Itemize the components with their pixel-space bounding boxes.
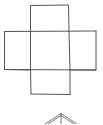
cross-net-diagram: Cross-shaped net of squares (cube net) w… — [0, 0, 103, 124]
pyramid-left-edge-outer — [45, 114, 61, 125]
pyramid-left-edge-inner — [48, 116, 61, 125]
net-face-bottom — [31, 94, 70, 95]
net-center-left-edge — [31, 31, 32, 94]
net-face-left — [5, 32, 31, 71]
net-face-top — [31, 5, 70, 31]
net-face-right — [70, 31, 96, 70]
net-crossbar-bottom-edge — [5, 70, 97, 71]
pyramid-right-edge-inner — [61, 116, 74, 125]
net-crossbar-top-edge — [5, 31, 97, 32]
net-center-right-edge — [69, 31, 70, 95]
cross-net — [5, 5, 97, 95]
pyramid-apex — [45, 114, 77, 125]
pyramid-right-edge-outer — [61, 114, 77, 125]
